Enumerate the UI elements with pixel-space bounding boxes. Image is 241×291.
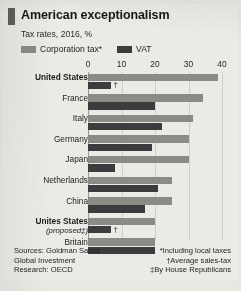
legend-label-corporation-tax: Corporation tax* [40,44,102,54]
chart-title: American exceptionalism [21,8,169,22]
legend-label-vat: VAT [136,44,151,54]
x-axis-tick-labels: 010203040 [0,59,241,71]
chart-row: Netherlands [0,175,241,196]
bar-corporation-tax [88,238,155,245]
source-line: Global Investment [14,256,100,266]
bar-corporation-tax [88,94,203,101]
x-tick-40: 40 [217,59,226,69]
bar-corporation-tax [88,156,189,163]
chart-row: United States† [0,72,241,93]
chart-row: Unites States(proposed‡)† [0,216,241,237]
category-label-united-states: United States [35,73,88,82]
legend-swatch-vat [117,46,132,53]
bar-corporation-tax [88,177,172,184]
chart-row: China [0,196,241,217]
chart-footnotes: *Including local taxes†Average sales-tax… [150,246,231,275]
bar-corporation-tax [88,197,172,204]
category-label-netherlands: Netherlands [43,176,88,185]
category-sublabel: (proposed‡) [35,226,88,235]
bar-vat [88,102,155,109]
bar-vat [88,185,158,192]
bar-vat [88,144,152,151]
bar-vat [88,123,162,130]
source-line: Sources: Goldman Sachs [14,246,100,256]
chart-row: Japan [0,154,241,175]
bar-corporation-tax [88,115,193,122]
category-label-france: France [62,94,88,103]
category-label-japan: Japan [65,155,88,164]
chart-footer: Sources: Goldman SachsGlobal InvestmentR… [0,246,241,282]
legend-item-corporation-tax: Corporation tax* [21,44,102,54]
source-line: Research: OECD [14,265,100,275]
bar-corporation-tax [88,74,218,81]
chart-bars-area: United States†FranceItalyGermanyJapanNet… [0,72,241,257]
bar-vat [88,205,145,212]
x-tick-20: 20 [150,59,159,69]
legend-swatch-corporation-tax [21,46,36,53]
vat-footnote-marker: † [113,225,117,234]
category-label-china: China [66,197,88,206]
category-label-germany: Germany [54,135,88,144]
x-tick-0: 0 [86,59,91,69]
bar-vat [88,82,111,89]
chart-subtitle: Tax rates, 2016, % [21,29,92,39]
category-label-italy: Italy [73,114,88,123]
bar-corporation-tax [88,135,189,142]
accent-bar-icon [8,8,15,25]
legend-item-vat: VAT [117,44,151,54]
chart-sources: Sources: Goldman SachsGlobal InvestmentR… [14,246,100,275]
chart-row: Germany [0,134,241,155]
footnote-line: ‡By House Republicans [150,265,231,275]
chart-row: Italy [0,113,241,134]
chart-row: France [0,93,241,114]
x-tick-10: 10 [117,59,126,69]
category-label-unites-states: Unites States(proposed‡) [35,217,88,235]
x-tick-30: 30 [184,59,193,69]
chart-legend: Corporation tax* VAT [21,44,162,54]
chart-figure: American exceptionalism Tax rates, 2016,… [0,0,241,291]
title-row: American exceptionalism [8,8,169,25]
vat-footnote-marker: † [113,80,117,89]
bar-vat [88,226,111,233]
footnote-line: †Average sales-tax [150,256,231,266]
footnote-line: *Including local taxes [150,246,231,256]
bar-vat [88,164,115,171]
bar-corporation-tax [88,218,155,225]
